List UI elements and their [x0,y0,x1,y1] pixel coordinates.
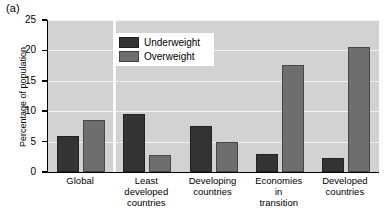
y-tick-label: 0 [8,167,36,177]
gridline [48,111,379,112]
legend-entry-underweight: Underweight [119,36,200,49]
legend-label-overweight: Overweight [144,51,195,62]
x-tick-label: Developing countries [179,175,245,197]
x-tick-label: Economies in transition [246,175,312,208]
x-tick-label: Developed countries [312,175,378,197]
y-tick-label: 5 [8,137,36,147]
bar [57,136,79,172]
bar [348,47,370,172]
legend-swatch-icon-underweight [119,37,139,48]
y-tick-label: 15 [8,76,36,86]
bar [190,126,212,172]
y-tick-label: 25 [8,15,36,25]
bar [83,120,105,172]
legend-swatch-icon-overweight [119,51,139,62]
bar [256,154,278,172]
x-tick-label: Global [47,175,113,186]
bar [123,114,145,172]
gridline [48,20,379,21]
y-tick-label: 20 [8,45,36,55]
gridline [48,81,379,82]
legend-label-underweight: Underweight [144,37,200,48]
bar [322,158,344,172]
bar [282,65,304,172]
bar [216,142,238,172]
panel-label: (a) [6,2,20,14]
x-tick-label: Least developed countries [113,175,179,208]
figure-panel-a: (a) Percentage of population 0510152025 … [0,0,391,215]
y-tick-label: 10 [8,106,36,116]
bar [149,155,171,172]
legend-entry-overweight: Overweight [119,50,195,63]
legend: Underweight Overweight [113,33,214,66]
